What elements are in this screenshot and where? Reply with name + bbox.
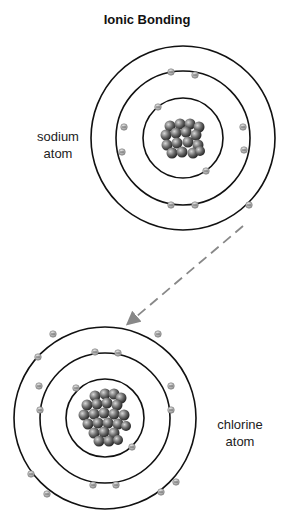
chlorine-nucleus bbox=[79, 389, 132, 447]
chlorine-label-line2: atom bbox=[210, 433, 270, 450]
chlorine-atom-label: chlorine atom bbox=[210, 416, 270, 450]
chlorine-label-line1: chlorine bbox=[210, 416, 270, 433]
sodium-middle-shell bbox=[116, 71, 250, 205]
sodium-atom bbox=[91, 46, 275, 230]
electron-transfer-arrow bbox=[130, 226, 243, 322]
sodium-label-line2: atom bbox=[28, 145, 88, 162]
ionic-bonding-diagram bbox=[0, 0, 284, 531]
sodium-atom-label: sodium atom bbox=[28, 128, 88, 162]
sodium-label-line1: sodium bbox=[28, 128, 88, 145]
chlorine-atom bbox=[14, 327, 196, 509]
sodium-nucleus bbox=[161, 119, 206, 159]
sodium-inner-shell bbox=[143, 98, 223, 178]
